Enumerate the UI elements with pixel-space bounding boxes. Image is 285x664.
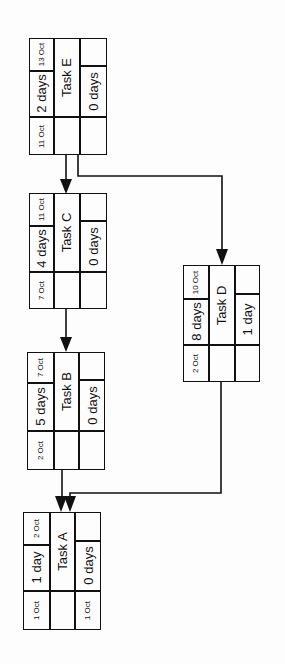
start-date: 11 Oct — [37, 125, 46, 148]
arrowhead-c — [60, 179, 72, 194]
float: 0 days — [86, 72, 101, 110]
finish-date: 10 Oct — [191, 270, 200, 294]
finish-date: 11 Oct — [37, 198, 46, 221]
duration: 1 day — [29, 552, 44, 584]
arrowhead-a-from-d — [64, 496, 76, 512]
arrowhead-d — [216, 249, 228, 265]
start-date: 1 Oct — [32, 600, 41, 619]
float: 0 days — [81, 546, 96, 584]
late-start-date: 1 Oct — [84, 600, 93, 619]
task-node-a[interactable]: 2 Oct 1 day 1 Oct Task A 0 days 1 Oct — [23, 512, 101, 630]
task-node-e[interactable]: 13 Oct 2 days 11 Oct Task E 0 days — [29, 38, 107, 155]
float: 0 days — [85, 386, 100, 424]
finish-date: 7 Oct — [36, 358, 45, 377]
finish-date: 13 Oct — [37, 43, 46, 67]
duration: 8 days — [189, 302, 204, 340]
task-node-b[interactable]: 7 Oct 5 days 2 Oct Task B 0 days — [27, 352, 105, 470]
float: 1 day — [240, 303, 255, 335]
arrowhead-b — [60, 337, 72, 352]
start-date: 2 Oct — [192, 354, 201, 373]
duration: 2 days — [34, 74, 49, 112]
duration: 5 days — [33, 387, 48, 425]
task-name: Task B — [59, 372, 74, 411]
start-date: 2 Oct — [36, 440, 45, 459]
float: 0 days — [86, 227, 101, 265]
task-node-d[interactable]: 10 Oct 8 days 2 Oct Task D 1 day — [183, 265, 260, 382]
start-date: 7 Oct — [37, 281, 46, 300]
task-node-c[interactable]: 11 Oct 4 days 7 Oct Task C 0 days — [29, 193, 107, 309]
task-name: Task A — [55, 532, 70, 570]
finish-date: 2 Oct — [32, 519, 41, 538]
task-name: Task D — [214, 285, 229, 325]
task-name: Task E — [59, 58, 74, 97]
task-name: Task C — [59, 213, 74, 253]
duration: 4 days — [34, 229, 49, 267]
